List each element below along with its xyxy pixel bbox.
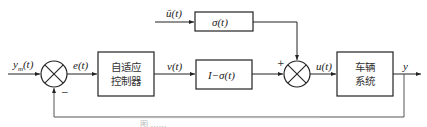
- feedback-minus-sign: −: [61, 88, 69, 97]
- vehicle-system-label: 车辆 系统: [337, 60, 393, 88]
- sum-junction-2: [284, 61, 310, 87]
- reference-arg: (t): [23, 58, 33, 70]
- output-label: y: [403, 60, 408, 72]
- adaptive-controller-line2: 控制器: [98, 74, 154, 88]
- vehicle-system-line1: 车辆: [337, 60, 393, 74]
- controller-output-label: v(t): [167, 60, 182, 72]
- sum2-plus-sign: +: [277, 59, 285, 68]
- control-input-label: u(t): [316, 60, 332, 72]
- sigma-output-line: [253, 22, 297, 60]
- adaptive-controller-line1: 自适应: [98, 60, 154, 74]
- adaptive-controller-label: 自适应 控制器: [98, 60, 154, 88]
- sum-junction-1: [41, 61, 67, 87]
- external-input-label: ū(t): [166, 7, 182, 19]
- figure-caption: 图 ……: [140, 118, 310, 127]
- vehicle-system-line2: 系统: [337, 74, 393, 88]
- error-signal-label: e(t): [73, 59, 88, 71]
- sigma-block-label: σ(t): [212, 16, 228, 28]
- one-minus-sigma-block-label: I−σ(t): [208, 69, 235, 81]
- reference-input-label: ym(t): [13, 58, 33, 75]
